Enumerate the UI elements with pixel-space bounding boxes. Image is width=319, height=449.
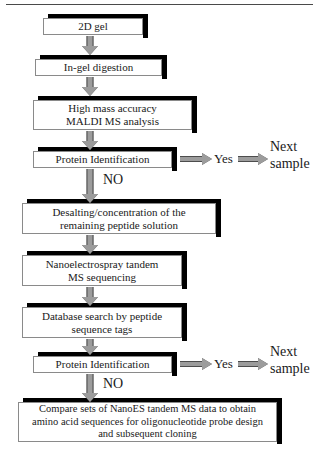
node-protein-identification-1[interactable]: Protein Identification — [33, 151, 172, 168]
node-label: In-gel digestion — [60, 61, 137, 74]
node-shadow-right-desalting — [216, 199, 221, 237]
node-database-search[interactable]: Database search by peptide sequence tags — [22, 307, 182, 338]
node-shadow-right-compare-sets — [277, 398, 282, 444]
arrow-nanoes-to-database-search — [81, 287, 98, 306]
node-label: Nanoelectrospray tandem MS sequencing — [42, 258, 163, 284]
node-label: 2D gel — [74, 20, 112, 33]
terminal-next-sample-2: Next sample — [270, 344, 310, 378]
node-label: Database search by peptide sequence tags — [38, 310, 166, 336]
node-shadow-right-protein-id-1 — [172, 147, 177, 171]
node-shadow-right-2d-gel — [143, 14, 148, 38]
node-label: High mass accuracy MALDI MS analysis — [62, 102, 163, 128]
arrow-protein-id-2-to-compare-sets — [81, 374, 98, 402]
arrow-database-search-to-protein-id-2 — [81, 339, 98, 355]
arrow-protein-id-2-to-yes — [180, 357, 212, 370]
node-shadow-right-database-search — [182, 303, 187, 341]
branch-label-no-1: NO — [103, 172, 123, 189]
node-maldi-ms-analysis[interactable]: High mass accuracy MALDI MS analysis — [33, 100, 192, 130]
node-in-gel-digestion[interactable]: In-gel digestion — [35, 59, 162, 76]
node-desalting-concentration[interactable]: Desalting/concentration of the remaining… — [22, 203, 216, 234]
node-label: Protein Identification — [52, 153, 154, 166]
node-shadow-right-in-gel-digestion — [162, 55, 167, 79]
branch-label-yes-2: Yes — [214, 356, 233, 372]
node-nanoelectrospray-sequencing[interactable]: Nanoelectrospray tandem MS sequencing — [22, 255, 182, 286]
branch-label-no-2: NO — [103, 376, 123, 393]
arrow-in-gel-digestion-to-maldi — [81, 77, 98, 96]
arrow-protein-id-1-to-yes — [180, 152, 212, 165]
node-shadow-right-nanoes — [182, 251, 187, 289]
arrow-desalting-to-nanoes — [81, 235, 98, 254]
arrow-protein-id-1-to-desalting — [81, 169, 98, 203]
arrow-maldi-to-protein-id-1 — [81, 131, 98, 150]
node-label: Protein Identification — [52, 358, 154, 371]
node-label: Compare sets of NanoES tandem MS data to… — [28, 403, 267, 440]
terminal-next-sample-1: Next sample — [270, 139, 310, 173]
branch-label-yes-1: Yes — [214, 151, 233, 167]
node-shadow-right-maldi — [192, 96, 197, 133]
flowchart-canvas: 2D gel In-gel digestion High mass accura… — [0, 0, 319, 449]
node-protein-identification-2[interactable]: Protein Identification — [33, 356, 172, 373]
arrow-yes-2-to-next-sample — [238, 357, 268, 370]
arrow-yes-1-to-next-sample — [238, 152, 268, 165]
node-2d-gel[interactable]: 2D gel — [43, 18, 143, 35]
arrow-2d-gel-to-in-gel-digestion — [81, 36, 98, 55]
node-compare-nanoes-datasets[interactable]: Compare sets of NanoES tandem MS data to… — [18, 402, 277, 442]
node-label: Desalting/concentration of the remaining… — [48, 206, 189, 232]
page-top-rule — [6, 4, 313, 5]
node-shadow-right-protein-id-2 — [172, 352, 177, 376]
